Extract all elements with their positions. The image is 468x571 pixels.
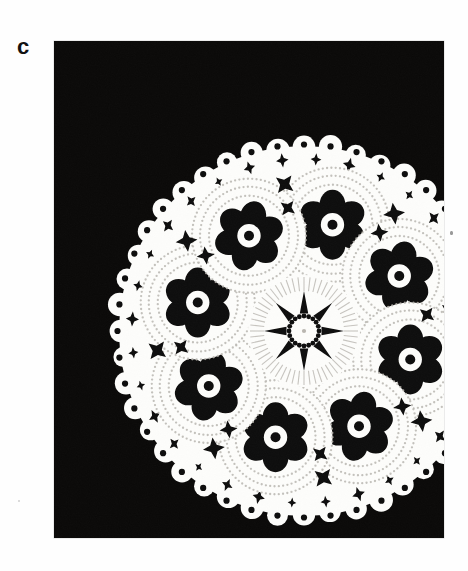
page-dust-speck (450, 231, 453, 235)
page-dust-speck-secondary (18, 500, 20, 502)
panel-letter-label: c (17, 36, 29, 58)
figure-panel: c (0, 0, 468, 571)
doily-photograph (54, 41, 444, 538)
film-grain-overlay (54, 41, 444, 538)
doily-illustration (54, 41, 444, 538)
